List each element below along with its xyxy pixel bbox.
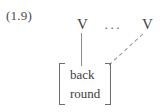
equation-number: (1.9) xyxy=(6,9,32,22)
association-line-solid xyxy=(81,33,82,66)
figure-canvas: (1.9) V ··· V back round xyxy=(0,0,167,112)
v-slot-right: V xyxy=(142,17,153,32)
ellipsis: ··· xyxy=(104,21,122,34)
bracket-right-icon xyxy=(105,63,111,105)
v-slot-left: V xyxy=(77,17,88,32)
feature-back: back xyxy=(70,65,100,84)
feature-list: back round xyxy=(65,63,105,105)
feature-round: round xyxy=(70,84,100,103)
feature-matrix: back round xyxy=(59,63,111,105)
skeletal-tier: V ··· V xyxy=(70,17,162,35)
